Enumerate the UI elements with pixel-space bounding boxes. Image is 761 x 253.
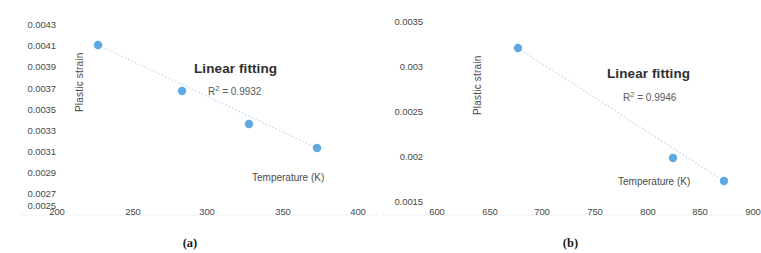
x-tick-label: 250: [113, 206, 153, 217]
x-tick-label: 800: [628, 206, 668, 217]
y-tick-label: 0.0029: [8, 167, 56, 178]
y-tick-label: 0.0039: [8, 61, 56, 72]
panel-caption-a: (a): [0, 236, 380, 251]
data-point: [178, 87, 186, 95]
y-tick-label: 0.0043: [8, 19, 56, 30]
chart-panel-b: 0.0035 0.003 0.0025 0.002 0.0015 600 650…: [380, 0, 761, 253]
y-tick-label: 0.0015: [375, 196, 423, 207]
y-tick-label: 0.0035: [8, 104, 56, 115]
annotation-r-squared: R2 = 0.9946: [623, 90, 676, 103]
y-tick-label: 0.0027: [8, 188, 56, 199]
data-point: [313, 144, 321, 152]
x-tick-label: 400: [338, 206, 378, 217]
x-tick-label: 300: [187, 206, 227, 217]
figure-container: 0.0043 0.0041 0.0039 0.0037 0.0035 0.003…: [0, 0, 761, 253]
y-tick-label: 0.0031: [8, 146, 56, 157]
data-point: [245, 120, 253, 128]
x-tick-label: 600: [417, 206, 457, 217]
y-tick-label: 0.0035: [375, 16, 423, 27]
y-axis-title: Plastic strain: [472, 56, 483, 116]
x-tick-label: 350: [263, 206, 303, 217]
y-tick-label: 0.003: [375, 61, 423, 72]
annotation-title: Linear fitting: [194, 61, 277, 76]
y-tick-label: 0.0033: [8, 125, 56, 136]
data-point: [720, 177, 728, 185]
annotation-r-squared: R2 = 0.9932: [208, 84, 261, 97]
x-axis-title: Temperature (K): [618, 176, 690, 187]
annotation-title: Linear fitting: [607, 66, 690, 81]
y-tick-label: 0.0025: [375, 106, 423, 117]
data-point: [669, 154, 677, 162]
data-point: [94, 41, 102, 49]
y-tick-label: 0.0037: [8, 83, 56, 94]
x-tick-label: 850: [680, 206, 720, 217]
r-squared-value: = 0.9946: [634, 92, 676, 103]
data-point: [514, 44, 522, 52]
x-axis-title: Temperature (K): [252, 172, 324, 183]
x-tick-label: 650: [470, 206, 510, 217]
x-tick-label: 200: [37, 206, 77, 217]
panel-caption-b: (b): [380, 236, 761, 251]
x-tick-label: 700: [522, 206, 562, 217]
r-squared-value: = 0.9932: [219, 86, 261, 97]
chart-panel-a: 0.0043 0.0041 0.0039 0.0037 0.0035 0.003…: [0, 0, 380, 253]
y-tick-label: 0.0041: [8, 40, 56, 51]
x-tick-label: 750: [575, 206, 615, 217]
y-axis-title: Plastic strain: [74, 53, 85, 113]
y-tick-label: 0.002: [375, 151, 423, 162]
x-tick-label: 900: [733, 206, 761, 217]
